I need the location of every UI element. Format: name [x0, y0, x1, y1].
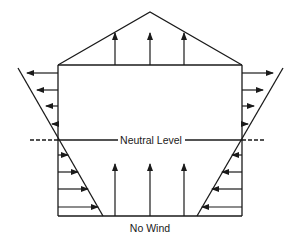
- neutral-level-label: Neutral Level: [120, 134, 182, 146]
- no-wind-label: No Wind: [130, 222, 170, 234]
- stack-effect-diagram: Neutral Level No Wind: [0, 0, 295, 240]
- left-pressure-line: [18, 68, 103, 216]
- right-pressure-line: [197, 68, 283, 216]
